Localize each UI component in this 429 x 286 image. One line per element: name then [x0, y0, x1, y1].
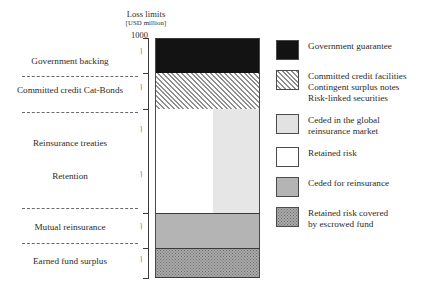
- axis-caption-line2: [USD million]: [104, 19, 188, 26]
- legend-item-escrowed-fund: Retained risk covered by escrowed fund: [276, 207, 428, 230]
- legend-label-retained-risk: Retained risk: [308, 147, 357, 159]
- brace-mutual-reinsurance: }: [140, 222, 143, 231]
- bar-subsegment-ceded-global-reinsurance: [213, 109, 259, 213]
- legend-label-government-guarantee: Government guarantee: [308, 40, 392, 52]
- bar-segment-committed-credit: [155, 73, 260, 109]
- bar-segment-escrowed-fund: [155, 248, 260, 278]
- legend-line: reinsurance market: [308, 126, 380, 137]
- legend-line: by escrowed fund: [308, 219, 388, 230]
- category-separator-1: [22, 76, 138, 77]
- axis-caption-line1: Loss limits: [104, 10, 188, 19]
- legend-line: Committed credit facilities: [308, 71, 406, 82]
- category-separator-4: [22, 243, 138, 244]
- legend-item-ceded-global-reinsurance: Ceded in the global reinsurance market: [276, 114, 428, 137]
- axis-tick-1: [143, 73, 149, 74]
- brace-retention: }: [140, 170, 143, 179]
- legend-label-ceded-for-reinsurance: Ceded for reinsurance: [308, 177, 389, 189]
- legend-label-committed-credit-facilities: Committed credit facilities Contingent s…: [308, 70, 406, 104]
- category-label-mutual-reinsurance: Mutual reinsurance: [2, 222, 138, 234]
- legend-item-government-guarantee: Government guarantee: [276, 40, 428, 60]
- legend-swatch-ceded-global-reinsurance: [276, 114, 299, 134]
- axis-tick-bottom: [143, 278, 149, 279]
- legend-line: Retained risk covered: [308, 208, 388, 219]
- bar-segment-ceded-for-reinsurance: [155, 213, 260, 248]
- category-label-retention: Retention: [2, 171, 138, 183]
- axis-tick-label-1000: 1000: [108, 30, 148, 40]
- legend-swatch-retained-risk: [276, 147, 299, 167]
- category-label-cat-bonds-line2: Cat-Bonds: [84, 85, 123, 95]
- legend-swatch-escrowed-fund: [276, 207, 299, 227]
- legend-item-retained-risk: Retained risk: [276, 147, 428, 167]
- legend-line: Government guarantee: [308, 41, 392, 52]
- brace-reinsurance-treaties: }: [140, 125, 143, 134]
- legend: Government guarantee Committed credit fa…: [276, 40, 428, 240]
- legend-line: Ceded in the global: [308, 115, 380, 126]
- legend-line: Retained risk: [308, 148, 357, 159]
- axis-tick-3: [143, 213, 149, 214]
- legend-swatch-government-guarantee: [276, 40, 299, 60]
- legend-line: Contingent surplus notes: [308, 82, 406, 93]
- legend-swatch-ceded-for-reinsurance: [276, 177, 299, 197]
- legend-line: Ceded for reinsurance: [308, 178, 389, 189]
- legend-swatch-committed-credit-facilities: [276, 70, 299, 90]
- diagram-canvas: Loss limits [USD million] 1000 } } } } }…: [0, 0, 429, 286]
- legend-item-committed-credit-facilities: Committed credit facilities Contingent s…: [276, 70, 428, 104]
- category-separator-3: [22, 208, 138, 209]
- category-label-earned-fund-surplus: Earned fund surplus: [2, 256, 138, 268]
- bar-segment-government-guarantee: [155, 38, 260, 73]
- legend-label-escrowed-fund: Retained risk covered by escrowed fund: [308, 207, 388, 230]
- category-label-reinsurance-treaties: Reinsurance treaties: [2, 138, 138, 150]
- category-label-government-backing: Government backing: [2, 56, 138, 68]
- value-axis-line: [148, 38, 149, 278]
- axis-caption: Loss limits [USD million]: [104, 10, 188, 26]
- axis-tick-2: [143, 109, 149, 110]
- brace-committed-credit: }: [140, 83, 143, 92]
- bar-subsegment-retained-risk: [156, 109, 213, 213]
- legend-line: Risk-linked securities: [308, 93, 406, 104]
- category-separator-2: [22, 112, 138, 113]
- brace-government-backing: }: [140, 47, 143, 56]
- axis-tick-4: [143, 248, 149, 249]
- legend-item-ceded-for-reinsurance: Ceded for reinsurance: [276, 177, 428, 197]
- brace-earned-fund-surplus: }: [140, 255, 143, 264]
- legend-label-ceded-global-reinsurance: Ceded in the global reinsurance market: [308, 114, 380, 137]
- bar-segment-retained-and-ceded: [155, 109, 260, 213]
- category-label-committed-credit: Committed credit Cat-Bonds: [2, 85, 138, 97]
- axis-tick-top: [143, 38, 149, 39]
- category-label-committed-credit-line1: Committed credit: [17, 85, 82, 95]
